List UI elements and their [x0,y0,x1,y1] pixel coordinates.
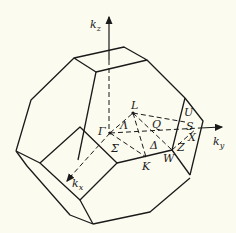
polyhedron-edges [16,47,203,224]
ky-axis-arrow [200,127,222,128]
gamma-label: Γ [98,126,106,137]
kz-axis-label: kz [90,19,101,33]
Z-label: Z [177,142,185,153]
sigma-label: Σ [111,143,119,154]
K-label: K [142,161,150,172]
kx-axis-label: kx [72,178,83,192]
brillouin-zone-diagram: kz ky kx Γ L K W X U Λ Δ Σ Q S Z [0,0,236,233]
lambda-label: Λ [120,120,128,131]
gamma-point [108,131,111,134]
W-label: W [163,153,174,164]
diagram-canvas [0,0,236,233]
L-label: L [131,100,138,111]
ky-axis-label: ky [213,136,224,150]
Q-label: Q [152,119,161,130]
symmetry-lines [72,60,200,175]
X-label: X [188,132,196,143]
delta-label: Δ [150,140,158,151]
U-label: U [184,107,193,118]
S-label: S [186,121,194,132]
